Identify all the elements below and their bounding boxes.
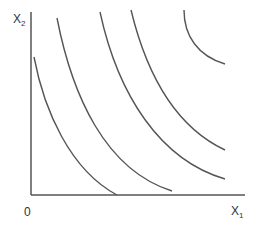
origin-label: 0 bbox=[24, 206, 31, 218]
curve-group bbox=[34, 10, 225, 195]
indifference-curve-1 bbox=[34, 57, 117, 195]
indifference-curve-4 bbox=[131, 10, 225, 150]
diagram-canvas bbox=[0, 0, 257, 227]
indifference-curve-5 bbox=[184, 10, 225, 64]
indifference-curve-diagram: X2 0 X1 bbox=[0, 0, 257, 227]
indifference-curve-2 bbox=[57, 18, 172, 191]
x-axis-label: X1 bbox=[231, 205, 243, 220]
y-axis-label: X2 bbox=[13, 13, 25, 28]
indifference-curve-3 bbox=[100, 12, 225, 179]
